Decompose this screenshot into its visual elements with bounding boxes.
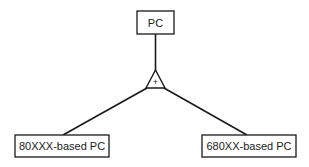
child-node-label-right: 680XX-based PC	[207, 140, 292, 152]
child-node-80xxx[interactable]: 80XXX-based PC	[15, 135, 109, 157]
parent-node-pc[interactable]: PC	[137, 11, 174, 34]
parent-node-label: PC	[148, 17, 163, 29]
generalization-plus-symbol: +	[153, 77, 158, 87]
generalization-node: +	[146, 70, 165, 88]
left-child-connector-line	[63, 88, 147, 135]
generalization-diagram: PC + 80XXX-based PC 680XX-based PC	[0, 0, 309, 167]
child-node-680xx[interactable]: 680XX-based PC	[202, 135, 296, 157]
right-child-connector-line	[164, 88, 247, 135]
child-node-label-left: 80XXX-based PC	[19, 140, 105, 152]
